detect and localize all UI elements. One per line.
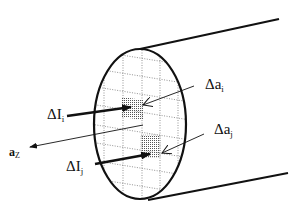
delta-a-i-pointer	[143, 86, 194, 105]
area-element-j	[141, 135, 160, 157]
delta-i-i-label: ΔIi	[47, 106, 65, 124]
delta-a-j-label: Δaj	[214, 121, 233, 139]
delta-i-i-arrow	[67, 107, 131, 116]
az-axis-arrow	[30, 125, 143, 147]
delta-i-j-label: ΔIj	[66, 158, 83, 176]
cross-section-ellipse	[94, 49, 186, 199]
conductor-diagram: ΔIi ΔIj Δai Δaj aZ	[0, 0, 302, 203]
cylinder-bottom-edge	[148, 173, 288, 200]
az-label: aZ	[9, 145, 20, 160]
cylinder-top-edge	[140, 19, 279, 49]
cross-section-grid	[90, 40, 190, 203]
delta-a-i-label: Δai	[205, 76, 224, 94]
